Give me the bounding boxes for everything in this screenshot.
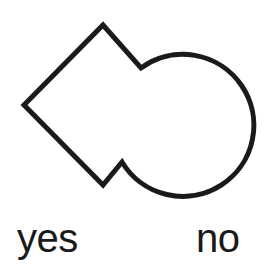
label-yes[interactable]: yes bbox=[17, 218, 78, 258]
union-shape-outline bbox=[24, 25, 254, 196]
label-no[interactable]: no bbox=[196, 218, 240, 258]
figure-canvas: yes no bbox=[0, 0, 264, 265]
